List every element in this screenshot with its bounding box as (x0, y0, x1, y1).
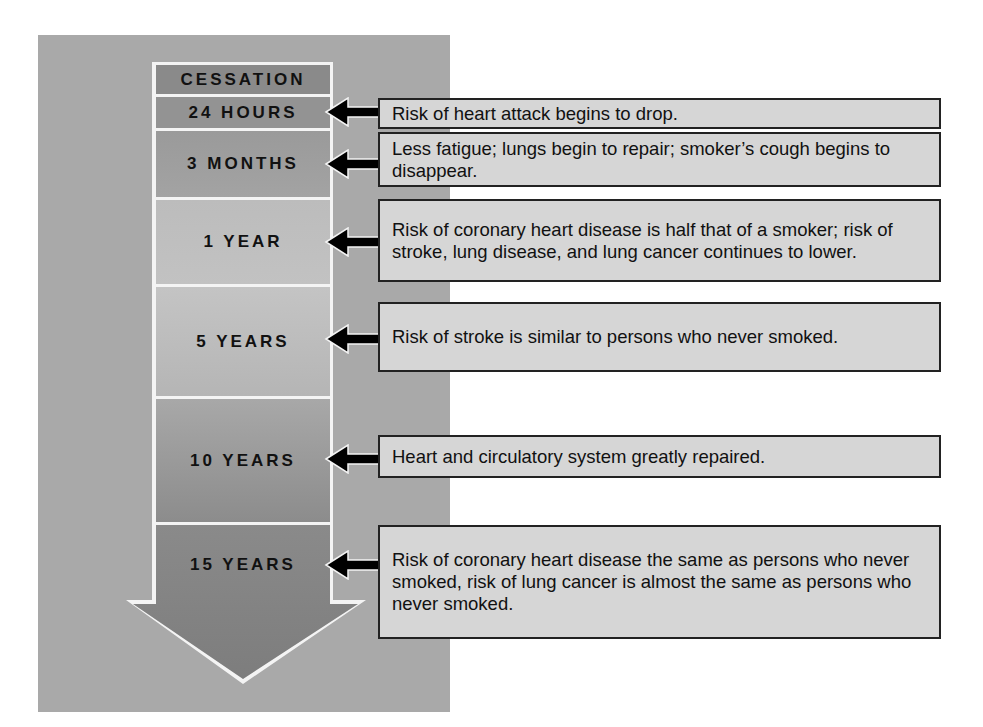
stage-description-24-hours: Risk of heart attack begins to drop. (378, 98, 941, 129)
timeline-header: CESSATION (156, 65, 330, 94)
left-arrow-icon (324, 550, 380, 580)
stage-description-5-years: Risk of stroke is similar to persons who… (378, 302, 941, 372)
stage-label-3-months: 3 MONTHS (156, 131, 330, 197)
stage-description-10-years: Heart and circulatory system greatly rep… (378, 435, 941, 478)
left-arrow-icon (324, 444, 380, 474)
left-arrow-icon (324, 324, 380, 354)
stage-label-10-years: 10 YEARS (156, 399, 330, 522)
stage-label-5-years: 5 YEARS (156, 287, 330, 396)
stage-label-15-years: 15 YEARS (156, 525, 330, 604)
stage-description-15-years: Risk of coronary heart disease the same … (378, 525, 941, 639)
stage-label-24-hours: 24 HOURS (156, 97, 330, 128)
left-arrow-icon (324, 97, 380, 127)
stage-description-3-months: Less fatigue; lungs begin to repair; smo… (378, 132, 941, 187)
stage-description-1-year: Risk of coronary heart disease is half t… (378, 199, 941, 282)
left-arrow-icon (324, 227, 380, 257)
left-arrow-icon (324, 149, 380, 179)
stage-label-1-year: 1 YEAR (156, 200, 330, 284)
